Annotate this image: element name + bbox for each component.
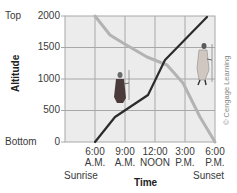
y-tick-2000: 2000 bbox=[26, 11, 60, 21]
x-tick-noon: 12:00 NOON bbox=[138, 146, 172, 168]
x-tick-noon-period: NOON bbox=[138, 157, 172, 168]
x-tick-noon-time: 12:00 bbox=[138, 146, 172, 157]
y-tick-0: 0 bbox=[26, 137, 60, 147]
x-tick-6am-period: A.M. bbox=[78, 157, 112, 168]
y-tick-500: 500 bbox=[26, 105, 60, 115]
x-tick-9am-period: A.M. bbox=[108, 157, 142, 168]
x-tick-6pm-time: 6:00 bbox=[198, 146, 232, 157]
sunset-annotation: Sunset bbox=[193, 170, 224, 181]
sunrise-annotation: Sunrise bbox=[64, 170, 98, 181]
y-tick-1500: 1500 bbox=[26, 42, 60, 52]
x-tick-6am-time: 6:00 bbox=[78, 146, 112, 157]
x-tick-6pm: 6:00 P.M. bbox=[198, 146, 232, 168]
x-tick-6am: 6:00 A.M. bbox=[78, 146, 112, 168]
x-tick-6pm-period: P.M. bbox=[198, 157, 232, 168]
x-tick-9am: 9:00 A.M. bbox=[108, 146, 142, 168]
x-tick-3pm-period: P.M. bbox=[168, 157, 202, 168]
y-axis-label: Altitude bbox=[10, 55, 21, 92]
y-tick-1000: 1000 bbox=[26, 74, 60, 84]
y-annotation-top: Top bbox=[5, 11, 21, 21]
x-tick-3pm-time: 3:00 bbox=[168, 146, 202, 157]
copyright-credit: © Cengage Learning bbox=[222, 56, 231, 125]
x-tick-3pm: 3:00 P.M. bbox=[168, 146, 202, 168]
x-tick-9am-time: 9:00 bbox=[108, 146, 142, 157]
x-axis-label: Time bbox=[134, 177, 157, 188]
